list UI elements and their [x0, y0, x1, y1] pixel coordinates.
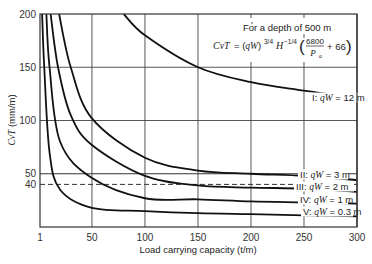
y-axis-ticks: 5040100150200: [19, 9, 36, 190]
svg-text:a: a: [319, 53, 322, 59]
svg-text:+ 66: + 66: [327, 41, 346, 52]
curve-label: IV: qW = 1 m: [300, 194, 353, 205]
x-tick: 300: [349, 232, 366, 243]
svg-text:CvT: CvT: [213, 40, 231, 51]
svg-text:= (qW): = (qW): [234, 40, 261, 51]
y-tick: 150: [19, 62, 36, 73]
x-tick: 200: [243, 232, 260, 243]
x-tick: 150: [190, 232, 207, 243]
x-tick: 50: [86, 232, 98, 243]
y-axis-label: CvT (mm/m): [6, 94, 17, 145]
x-tick: 100: [137, 232, 154, 243]
curve-label: II: qW = 3 m: [300, 169, 350, 180]
svg-text:(: (: [299, 37, 305, 56]
curve-label: III: qW = 2 m: [296, 181, 349, 192]
svg-text:6800: 6800: [306, 37, 324, 46]
svg-text:3/4: 3/4: [264, 38, 273, 45]
svg-text:): ): [346, 37, 352, 56]
chart: 150100150200250300 5040100150200 Load ca…: [0, 0, 372, 264]
curve-label: V: qW = 0.3 m: [303, 206, 362, 217]
y-tick: 200: [19, 9, 36, 20]
y-tick: 100: [19, 115, 36, 126]
y-tick: 50: [25, 168, 37, 179]
x-tick: 250: [296, 232, 313, 243]
x-axis-label: Load carrying capacity (t/m): [139, 244, 256, 255]
depth-note: For a depth of 500 m: [243, 22, 331, 33]
svg-text:−1/4: −1/4: [284, 38, 297, 45]
x-axis-ticks: 150100150200250300: [37, 232, 366, 243]
y-tick: 40: [25, 179, 37, 190]
formula-annotation: For a depth of 500 m CvT = (qW) 3/4 H −1…: [212, 18, 354, 62]
svg-text:H: H: [275, 40, 284, 51]
svg-text:P: P: [309, 48, 316, 58]
x-tick: 1: [37, 232, 43, 243]
